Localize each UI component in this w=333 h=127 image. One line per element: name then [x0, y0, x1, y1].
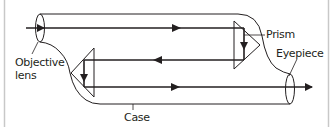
eyepiece-lens — [286, 74, 295, 104]
arrow-down-icon — [240, 42, 248, 50]
label-objective-line1: Objective — [15, 57, 64, 69]
arrow-right-icon — [305, 83, 313, 91]
arrow-right-icon — [37, 24, 45, 32]
label-objective-line2: lens — [15, 70, 36, 82]
label-eyepiece: Eyepiece — [276, 48, 323, 60]
label-prism: Prism — [266, 29, 295, 41]
prism-left — [71, 48, 94, 97]
arrow-down-icon — [80, 74, 88, 82]
arrow-left-icon — [153, 56, 162, 64]
arrow-right-icon — [172, 24, 181, 32]
arrow-right-icon — [171, 83, 180, 91]
label-case: Case — [124, 112, 150, 124]
